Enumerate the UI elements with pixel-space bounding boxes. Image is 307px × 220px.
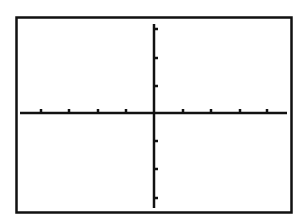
graph-screen [0,0,307,220]
